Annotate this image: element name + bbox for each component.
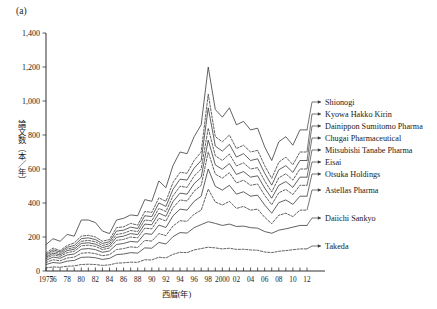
legend-label-daiichi-sankyo: Daiichi Sankyo [325, 214, 376, 223]
y-tick-label: 600 [28, 165, 40, 174]
legend-label-eisai: Eisai [325, 158, 342, 167]
legend-leader-arrow [318, 100, 321, 103]
legend-leader-lines [307, 100, 321, 249]
x-tick-label: 78 [64, 275, 72, 284]
x-axis-title: 西暦(年) [162, 289, 192, 299]
legend-leader-arrow [318, 172, 321, 175]
legend-label-astellas-pharma: Astellas Pharma [325, 186, 379, 195]
series-line [46, 67, 307, 245]
y-tick-label: 400 [28, 199, 40, 208]
x-tick-label: 96 [190, 275, 198, 284]
x-tick-label: 06 [261, 275, 269, 284]
legend-leader-line [307, 190, 321, 210]
legend-leader-arrow [318, 244, 321, 247]
legend-leader-arrow [318, 124, 321, 127]
legend-label-takeda: Takeda [325, 242, 349, 251]
x-tick-label: 88 [134, 275, 142, 284]
x-tick-label: 92 [162, 275, 170, 284]
x-tick-label: 02 [233, 275, 241, 284]
series-line [46, 108, 307, 255]
y-tick-label: 800 [28, 131, 40, 140]
x-axis-tick-marks [46, 268, 307, 272]
x-tick-label: 90 [148, 275, 156, 284]
y-axis-tick-marks [43, 33, 47, 271]
y-tick-label: 200 [28, 233, 40, 242]
legend-leader-arrow [318, 136, 321, 139]
x-tick-label: 98 [205, 275, 213, 284]
legend-labels: ShionogiKyowa Hakko KirinDainippon Sumit… [325, 98, 423, 251]
x-tick-label: 2000 [215, 275, 230, 284]
x-tick-label: 94 [176, 275, 184, 284]
x-tick-label: 82 [92, 275, 100, 284]
legend-label-mitsubishi-tanabe-pharma: Mitsubishi Tanabe Pharma [325, 146, 413, 155]
legend-leader-arrow [318, 148, 321, 151]
y-tick-label: 1,200 [22, 63, 40, 72]
legend-leader-arrow [318, 160, 321, 163]
x-tick-label: 76 [49, 275, 57, 284]
x-tick-label: 04 [247, 275, 255, 284]
x-tick-label: 12 [303, 275, 311, 284]
legend-label-chugai-pharmaceutical: Chugai Pharmaceutical [325, 134, 402, 143]
y-tick-label: 1,000 [22, 97, 40, 106]
x-tick-label: 86 [120, 275, 128, 284]
x-tick-label: 10 [289, 275, 297, 284]
series-line [46, 169, 307, 260]
legend-label-otsuka-holdings: Otsuka Holdings [325, 170, 380, 179]
x-tick-label: 80 [78, 275, 86, 284]
legend-label-dainippon-sumitomo-pharma: Dainippon Sumitomo Pharma [325, 122, 423, 131]
legend-leader-arrow [318, 216, 321, 219]
y-axis-title: 論文数（本／年） [16, 119, 26, 184]
series-lines [46, 67, 307, 268]
legend-leader-line [307, 174, 321, 196]
x-tick-label: 84 [106, 275, 114, 284]
series-line [46, 140, 307, 257]
legend-label-kyowa-hakko-kirin: Kyowa Hakko Kirin [325, 110, 392, 119]
legend-leader-arrow [318, 112, 321, 115]
y-tick-label: 1,400 [22, 29, 40, 38]
legend-label-shionogi: Shionogi [325, 98, 355, 107]
line-chart: 02004006008001,0001,2001,400 19757678808… [0, 0, 437, 309]
figure-panel: (a) 02004006008001,0001,2001,400 1975767… [0, 0, 437, 309]
legend-leader-arrow [318, 188, 321, 191]
x-axis-tick-labels: 1975767880828486889092949698200002040608… [39, 275, 311, 284]
series-line [46, 94, 307, 253]
x-tick-label: 08 [275, 275, 283, 284]
